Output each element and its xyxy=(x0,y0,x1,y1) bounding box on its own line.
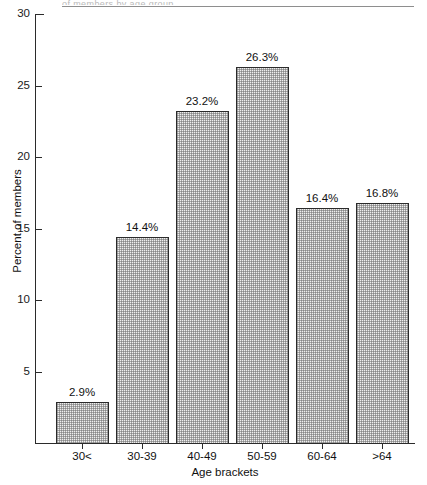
bar xyxy=(116,237,169,444)
bar xyxy=(236,67,289,444)
y-axis-tick xyxy=(35,300,42,301)
bar-value-label: 14.4% xyxy=(112,221,172,233)
y-axis-tick xyxy=(35,14,42,15)
bar-value-label: 16.4% xyxy=(292,192,352,204)
y-axis-tick xyxy=(35,86,42,87)
bar xyxy=(356,203,409,444)
bar xyxy=(176,111,229,444)
x-axis-tick xyxy=(382,443,383,449)
y-axis-tick-label: 5 xyxy=(0,366,30,377)
y-axis-tick-label: 25 xyxy=(0,80,30,91)
y-axis-tick-label: 30 xyxy=(0,8,30,19)
bar-value-label: 23.2% xyxy=(172,95,232,107)
bar-value-label: 16.8% xyxy=(352,187,412,199)
x-axis-tick xyxy=(82,443,83,449)
bar xyxy=(296,208,349,444)
x-axis-title: Age brackets xyxy=(35,466,415,478)
bar-value-label: 26.3% xyxy=(232,51,292,63)
x-axis-tick xyxy=(142,443,143,449)
y-axis-tick xyxy=(35,157,42,158)
page-header-rule xyxy=(62,6,414,7)
x-axis-tick xyxy=(262,443,263,449)
bar-value-label: 2.9% xyxy=(52,386,112,398)
x-axis-category-label: >64 xyxy=(347,450,417,463)
bar xyxy=(56,402,109,444)
y-axis-title: Percent of members xyxy=(11,156,23,286)
y-axis-tick xyxy=(35,229,42,230)
x-axis-tick xyxy=(322,443,323,449)
y-axis-tick-label: 10 xyxy=(0,294,30,305)
x-axis-tick xyxy=(202,443,203,449)
bar-chart: of members by age group 51015202530 Perc… xyxy=(0,0,427,485)
y-axis-tick xyxy=(35,372,42,373)
page-top-text-artifact: of members by age group xyxy=(62,0,377,5)
